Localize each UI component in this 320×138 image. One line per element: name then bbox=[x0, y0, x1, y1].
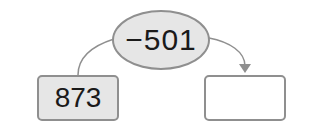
operation-oval: −501 bbox=[112, 10, 210, 70]
arrow-head-icon bbox=[239, 64, 251, 73]
line-start-to-operation bbox=[78, 39, 114, 75]
result-answer-box[interactable] bbox=[204, 75, 286, 121]
line-operation-to-result bbox=[209, 38, 245, 66]
start-value-box: 873 bbox=[37, 75, 119, 121]
start-value-label: 873 bbox=[55, 82, 102, 114]
operation-label: −501 bbox=[125, 23, 197, 57]
